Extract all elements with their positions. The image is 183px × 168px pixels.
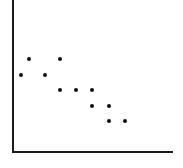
scatter-plot	[0, 0, 183, 168]
data-points	[19, 57, 127, 123]
data-point	[90, 88, 94, 92]
data-point	[58, 88, 62, 92]
data-point	[43, 73, 47, 77]
data-point	[74, 88, 78, 92]
data-point	[19, 73, 23, 77]
data-point	[90, 104, 94, 108]
data-point	[27, 57, 31, 61]
data-point	[58, 57, 62, 61]
data-point	[123, 119, 127, 123]
data-point	[107, 104, 111, 108]
data-point	[107, 119, 111, 123]
